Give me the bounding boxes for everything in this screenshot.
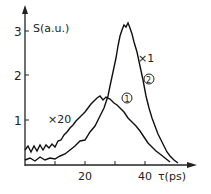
curve-2: [25, 23, 178, 163]
x-tick-20: 20: [78, 170, 92, 183]
x-tick-40: 40: [138, 170, 152, 183]
x-axis-arrow-icon: [187, 162, 197, 168]
y-tick-3: 3: [14, 25, 22, 39]
y-axis-arrow-icon: [22, 5, 28, 14]
curve-1-label: 1: [125, 95, 130, 104]
curve-2-label: 2: [146, 76, 151, 85]
chart: 3 2 1 20 40 S(a.u.) τ(ps) ×1 2 ×20 1: [0, 0, 211, 194]
y-tick-2: 2: [14, 69, 22, 83]
scale-label-x1: ×1: [138, 52, 154, 65]
scale-label-x20: ×20: [48, 113, 71, 126]
y-axis-label: S(a.u.): [33, 22, 69, 35]
x-axis-label: τ(ps): [158, 170, 186, 183]
y-tick-1: 1: [14, 114, 22, 128]
